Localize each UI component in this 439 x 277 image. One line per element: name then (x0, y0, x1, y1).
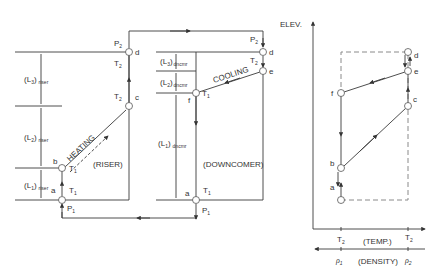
temp-axis-label: (TEMP.) (363, 237, 392, 246)
temp-b-riser: T1 (69, 164, 77, 174)
downcomer-section: (L3)dncmr (L2)dncmr (L1)dncmr COOLING (D… (156, 35, 274, 219)
x-tick-2: T2 (405, 233, 413, 243)
temp-f-dncmr: T1 (202, 89, 210, 99)
plot-label-e: e (414, 67, 419, 76)
node-d-dncmr (260, 49, 267, 56)
elevation-temp-plot: ELEV. T2 (TEMP.) T2 ρ1 (DENSITY) ρ2 a b … (280, 20, 425, 266)
natural-circulation-diagram: (L3)riser (L2)riser (L1)riser HEATING (R… (0, 0, 439, 277)
plot-cooling-line (344, 72, 405, 92)
node-e-dncmr (260, 68, 267, 75)
press-d-riser: P2 (114, 39, 122, 49)
press-a-riser: P1 (67, 204, 75, 214)
riser-wall (62, 52, 129, 200)
plot-node-c (405, 103, 412, 110)
press-d-dncmr: P2 (250, 35, 258, 45)
elev-axis-label: ELEV. (280, 20, 302, 29)
x-tick-1: T2 (337, 235, 345, 245)
node-f-dncmr (193, 90, 200, 97)
label-b-riser: b (53, 157, 58, 166)
node-b-riser (59, 165, 66, 172)
plot-node-b (338, 165, 345, 172)
downcomer-label: (DOWNCOMER) (203, 160, 264, 169)
node-c-riser (126, 103, 133, 110)
plot-node-d (405, 49, 412, 56)
plot-label-c: c (413, 95, 417, 104)
plot-label-f: f (331, 89, 334, 98)
density-tick-2: ρ2 (404, 256, 412, 266)
temp-a-riser: T1 (69, 186, 77, 196)
density-axis-label: (DENSITY) (358, 257, 398, 266)
press-a-dncmr: P1 (202, 206, 210, 216)
density-tick-1: ρ1 (335, 256, 343, 266)
top-connector (129, 31, 263, 48)
label-f-dncmr: f (188, 96, 191, 105)
heating-label: HEATING (65, 133, 97, 163)
l2-riser-label: (L2)riser (24, 133, 49, 143)
plot-node-a0 (338, 197, 345, 204)
l3-riser-label: (L3)riser (24, 75, 49, 85)
label-d-dncmr: d (269, 48, 273, 57)
l1-riser-label: (L1)riser (24, 181, 49, 191)
temp-c-riser: T2 (114, 92, 122, 102)
node-a-riser (59, 197, 66, 204)
temp-d-riser: T2 (114, 59, 122, 69)
l3-dncmr-label: (L3)dncmr (160, 57, 188, 67)
label-a-riser: a (51, 186, 56, 195)
riser-label: (RISER) (93, 160, 123, 169)
label-a-dncmr: a (185, 189, 190, 198)
l2-dncmr-label: (L2)dncmr (160, 78, 188, 88)
riser-section: (L3)riser (L2)riser (L1)riser HEATING (R… (15, 39, 139, 218)
node-a-dncmr (193, 197, 200, 204)
label-e-dncmr: e (269, 67, 274, 76)
plot-node-f (338, 90, 345, 97)
plot-label-d: d (414, 51, 418, 60)
label-c-riser: c (135, 93, 139, 102)
plot-node-e (405, 68, 412, 75)
label-d-riser: d (135, 48, 139, 57)
temp-a-dncmr: T1 (203, 186, 211, 196)
l1-dncmr-label: (L1)dncmr (158, 139, 187, 149)
temp-e-dncmr: T2 (250, 56, 258, 66)
plot-label-b: b (330, 159, 335, 168)
node-d-riser (126, 49, 133, 56)
bottom-connector (62, 212, 196, 219)
plot-label-a: a (330, 183, 335, 192)
